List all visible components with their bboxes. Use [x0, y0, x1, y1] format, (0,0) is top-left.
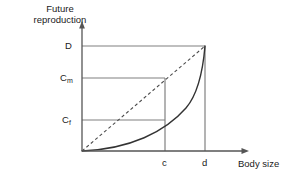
y-axis-title-line2: reproduction: [34, 14, 87, 25]
y-tick-label-cm: Cm: [60, 72, 73, 83]
y-tick-label-cm-base: C: [60, 72, 67, 83]
y-axis-title-line1: Future: [46, 3, 73, 14]
y-tick-label-cf: Cf: [62, 114, 71, 125]
chord-dashed-line: [82, 46, 205, 151]
y-axis-title: Futurereproduction: [14, 3, 106, 25]
x-tick-label-d: d: [202, 157, 207, 168]
plot-canvas: [0, 0, 293, 179]
x-tick-label-c: c: [162, 157, 167, 168]
figure-container: Futurereproduction Body size D Cm Cf c d: [0, 0, 293, 179]
y-tick-label-cf-base: C: [62, 114, 69, 125]
y-tick-label-cf-subscript: f: [69, 119, 71, 126]
y-tick-label-d: D: [65, 40, 72, 51]
x-axis-title: Body size: [238, 158, 279, 169]
y-tick-label-d-text: D: [65, 40, 72, 51]
x-axis-arrowhead-icon: [242, 148, 250, 154]
y-tick-label-cm-subscript: m: [67, 77, 73, 84]
